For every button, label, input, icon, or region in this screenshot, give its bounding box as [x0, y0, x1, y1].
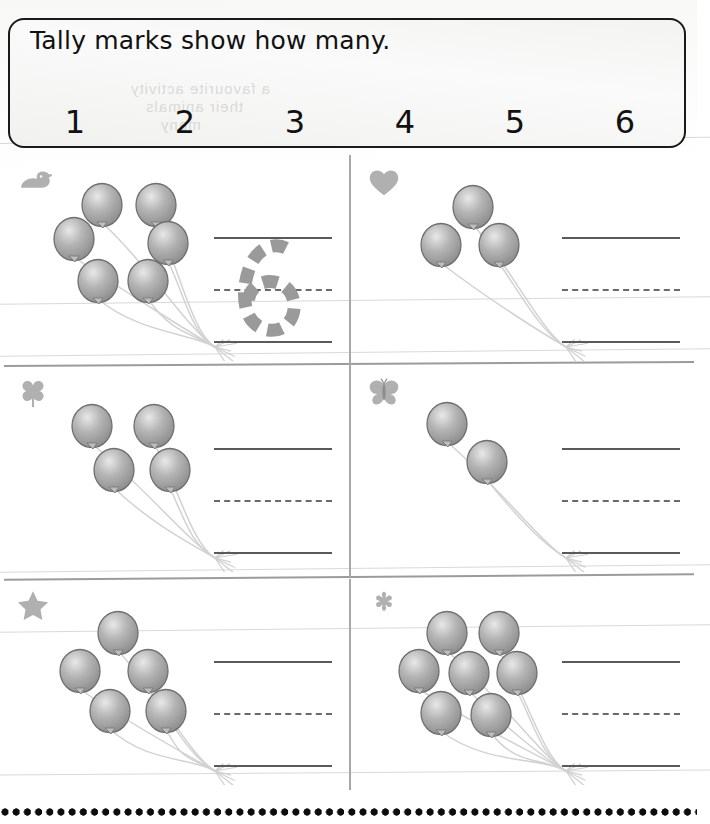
problem-cell-3 — [0, 366, 349, 577]
answer-area — [562, 374, 687, 572]
answer-area — [214, 374, 339, 572]
ruled-line-top — [214, 448, 332, 450]
handwriting-lines[interactable] — [562, 448, 682, 564]
page-bottom-dotted-border — [0, 806, 697, 818]
tally-key-entry-5: 5 — [460, 60, 570, 138]
tally-glyph — [380, 60, 430, 104]
problem-row — [0, 366, 697, 577]
balloon-cluster — [30, 161, 240, 361]
handwriting-lines[interactable] — [214, 237, 334, 353]
handwriting-lines[interactable] — [562, 661, 682, 777]
answer-area — [214, 163, 339, 361]
tally-glyph — [214, 177, 339, 221]
ruled-line-middle-dashed — [214, 500, 332, 502]
ruled-line-top — [562, 237, 680, 239]
tally-key-number: 6 — [615, 106, 635, 138]
problem-cell-5 — [0, 579, 349, 790]
handwriting-lines[interactable] — [214, 448, 334, 564]
answer-area — [214, 587, 339, 785]
tally-key-number: 3 — [285, 106, 305, 138]
problem-cell-4 — [349, 366, 698, 577]
tally-glyph — [214, 601, 339, 645]
tally-key-row: 1 2 3 4 5 6 — [20, 60, 680, 146]
tally-key-number: 2 — [175, 106, 195, 138]
ruled-line-top — [214, 237, 332, 239]
balloon-cluster — [30, 372, 240, 572]
answer-area — [562, 163, 687, 361]
handwriting-lines[interactable] — [562, 237, 682, 353]
problem-cell-6 — [349, 579, 698, 790]
tally-key-number: 5 — [505, 106, 525, 138]
handwriting-lines[interactable] — [214, 661, 334, 777]
ruled-line-top — [562, 448, 680, 450]
ruled-line-bottom — [562, 341, 680, 343]
answer-area — [562, 587, 687, 785]
tally-key-number: 1 — [65, 106, 85, 138]
tally-glyph — [214, 388, 339, 432]
tally-key-entry-2: 2 — [130, 60, 240, 138]
ruled-line-middle-dashed — [562, 500, 680, 502]
ruled-line-top — [214, 661, 332, 663]
page-title: Tally marks show how many. — [30, 26, 390, 55]
ruled-line-top — [562, 661, 680, 663]
tally-glyph — [73, 60, 78, 104]
problem-grid — [0, 155, 697, 790]
tally-key-entry-4: 4 — [350, 60, 460, 138]
balloon-cluster — [30, 585, 240, 785]
tally-glyph — [562, 601, 687, 645]
ruled-line-middle-dashed — [562, 289, 680, 291]
problem-cell-2 — [349, 155, 698, 366]
ruled-line-bottom — [562, 765, 680, 767]
ruled-line-middle-dashed — [562, 713, 680, 715]
ruled-line-bottom — [214, 552, 332, 554]
ruled-line-middle-dashed — [214, 713, 332, 715]
ruled-line-bottom — [214, 765, 332, 767]
problem-row — [0, 155, 697, 366]
balloon-cluster — [381, 585, 591, 785]
tally-glyph — [486, 60, 544, 104]
tally-glyph — [278, 60, 313, 104]
tally-key-number: 4 — [395, 106, 415, 138]
tally-key-entry-6: 6 — [570, 60, 680, 138]
balloon-cluster — [381, 372, 591, 572]
instruction-banner: a favourite activity their animals many … — [8, 18, 686, 148]
problem-cell-1 — [0, 155, 349, 366]
tally-glyph — [175, 60, 195, 104]
problem-row — [0, 579, 697, 790]
ruled-line-bottom — [562, 552, 680, 554]
balloon-cluster — [381, 161, 591, 361]
tally-glyph — [562, 177, 687, 221]
tally-key-entry-3: 3 — [240, 60, 350, 138]
ruled-line-bottom — [214, 341, 332, 343]
ruled-line-middle-dashed — [214, 289, 332, 291]
tally-glyph — [562, 388, 687, 432]
tally-key-entry-1: 1 — [20, 60, 130, 138]
tally-glyph — [587, 60, 663, 104]
